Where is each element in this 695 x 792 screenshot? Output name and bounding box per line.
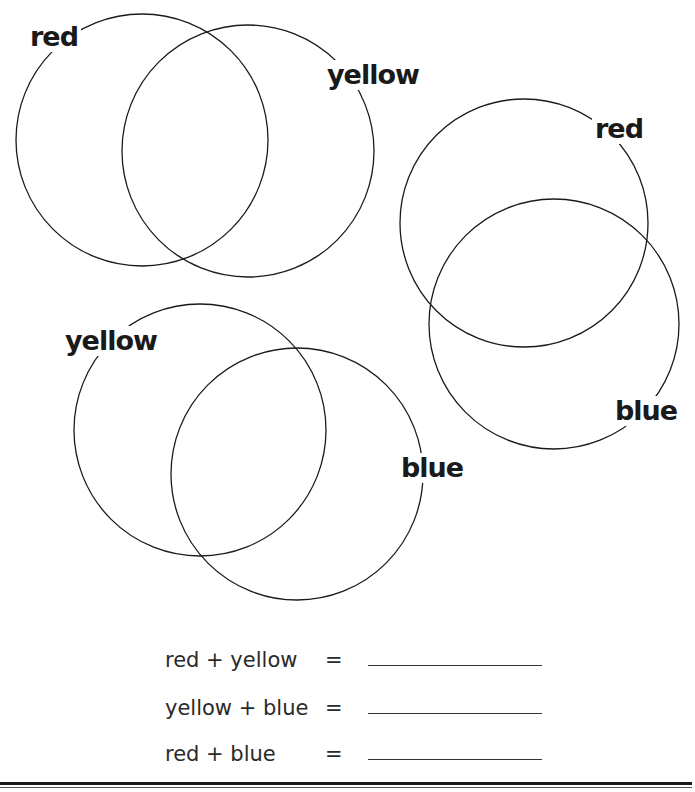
label-blue-right: blue xyxy=(612,396,680,426)
equation-row: yellow + blue = xyxy=(165,690,542,720)
label-yellow-bottom: yellow xyxy=(62,326,160,356)
answer-blank[interactable] xyxy=(368,664,542,666)
equation-left: red + yellow xyxy=(165,648,325,672)
bottom-rule xyxy=(0,782,692,785)
equation-row: red + yellow = xyxy=(165,642,542,672)
equals-sign: = xyxy=(325,648,365,672)
equals-sign: = xyxy=(325,696,365,720)
equation-left: yellow + blue xyxy=(165,696,325,720)
circle-blue-bottom xyxy=(171,348,423,600)
venn-diagrams xyxy=(0,0,695,792)
answer-blank[interactable] xyxy=(368,758,542,760)
label-red-right: red xyxy=(592,114,646,144)
label-red-top: red xyxy=(27,22,81,52)
equals-sign: = xyxy=(325,742,365,766)
equation-left: red + blue xyxy=(165,742,325,766)
answer-blank[interactable] xyxy=(368,712,542,714)
equation-row: red + blue = xyxy=(165,736,542,766)
label-blue-bottom: blue xyxy=(398,453,466,483)
bottom-rule-thin xyxy=(0,787,692,788)
label-yellow-top: yellow xyxy=(324,60,422,90)
